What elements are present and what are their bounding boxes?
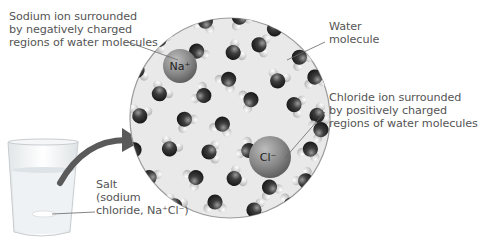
water-molecule-label: Water molecule: [329, 20, 379, 46]
chloride-label-line3: regions of water molecules: [329, 117, 478, 130]
salt-label-line2: (sodium: [96, 191, 189, 204]
water-label-line1: Water: [329, 20, 379, 33]
sodium-label-line2: by negatively charged: [9, 23, 158, 36]
salt-label-line3: chloride, Na⁺Cl⁻): [96, 204, 189, 217]
glass-of-water: [8, 139, 79, 236]
chloride-label-line2: by positively charged: [329, 104, 478, 117]
sodium-label-line1: Sodium ion surrounded: [9, 10, 158, 23]
chloride-label: Chloride ion surrounded by positively ch…: [329, 91, 478, 130]
water-label-line2: molecule: [329, 33, 379, 46]
svg-text:Cl⁻: Cl⁻: [260, 151, 277, 164]
sodium-label-line3: regions of water molecules: [9, 36, 158, 49]
salt-label-line1: Salt: [96, 178, 189, 191]
sodium-ion-icon: Na⁺: [163, 49, 197, 83]
chloride-ion-icon: Cl⁻: [249, 136, 291, 178]
chloride-label-line1: Chloride ion surrounded: [329, 91, 478, 104]
sodium-label: Sodium ion surrounded by negatively char…: [9, 10, 158, 49]
salt-label: Salt (sodium chloride, Na⁺Cl⁻): [96, 178, 189, 217]
svg-text:Na⁺: Na⁺: [170, 60, 191, 73]
